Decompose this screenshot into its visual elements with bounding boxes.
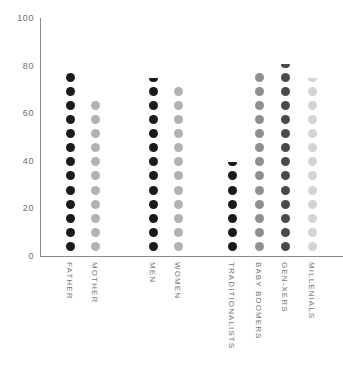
dot: [174, 214, 183, 223]
dot-column-millenials: [305, 78, 319, 256]
dot: [66, 157, 75, 166]
dot: [281, 87, 290, 96]
dot: [66, 242, 75, 251]
dot: [281, 129, 290, 138]
dot: [255, 101, 264, 110]
dot: [255, 228, 264, 237]
dot: [281, 101, 290, 110]
dot: [174, 228, 183, 237]
x-axis-label-gen-xers: GEN-XERS: [280, 262, 289, 313]
dot: [91, 171, 100, 180]
dot: [66, 228, 75, 237]
dot: [66, 171, 75, 180]
dot: [308, 157, 317, 166]
dot: [255, 157, 264, 166]
dot-column-gen-xers: [278, 64, 292, 256]
dot: [149, 129, 158, 138]
x-axis-label-women: WOMEN: [173, 262, 182, 299]
dot: [255, 143, 264, 152]
dot: [91, 228, 100, 237]
dot: [281, 186, 290, 195]
dot: [308, 242, 317, 251]
dot: [174, 171, 183, 180]
dot-column-father: [63, 73, 77, 256]
dot: [255, 214, 264, 223]
dot: [255, 200, 264, 209]
dot: [91, 115, 100, 124]
dot: [174, 143, 183, 152]
dot: [91, 186, 100, 195]
dot: [308, 228, 317, 237]
dot: [149, 186, 158, 195]
dot-partial: [308, 78, 317, 82]
dot: [255, 129, 264, 138]
dot: [149, 228, 158, 237]
dot: [149, 87, 158, 96]
x-axis-label-father: FATHER: [65, 262, 74, 300]
dot: [308, 129, 317, 138]
dot: [281, 115, 290, 124]
dot: [91, 129, 100, 138]
dot: [91, 200, 100, 209]
dot: [308, 171, 317, 180]
dot: [308, 143, 317, 152]
dot-column-mother: [88, 101, 102, 256]
dot: [281, 157, 290, 166]
dot: [174, 242, 183, 251]
dot: [174, 101, 183, 110]
dot: [174, 200, 183, 209]
dot: [308, 101, 317, 110]
dot: [149, 157, 158, 166]
dot-partial: [149, 78, 158, 82]
dot: [149, 171, 158, 180]
dot: [308, 200, 317, 209]
dot: [174, 129, 183, 138]
dot: [281, 214, 290, 223]
dot: [149, 143, 158, 152]
dot: [149, 200, 158, 209]
dot-column-traditionalists: [225, 162, 239, 256]
dot: [308, 186, 317, 195]
dot: [91, 101, 100, 110]
x-axis-label-millenials: MILLENIALS: [307, 262, 316, 319]
dot: [174, 157, 183, 166]
dot-column-women: [171, 87, 185, 256]
dot: [281, 242, 290, 251]
plot-area: FATHERMOTHERMENWOMENTRADITIONALISTSBABY …: [0, 0, 343, 368]
dot: [255, 186, 264, 195]
dot: [66, 87, 75, 96]
dot: [255, 242, 264, 251]
dot: [66, 200, 75, 209]
dot: [174, 87, 183, 96]
dot: [91, 242, 100, 251]
dot: [281, 228, 290, 237]
dot: [281, 200, 290, 209]
dot: [174, 115, 183, 124]
dot: [91, 157, 100, 166]
x-axis-label-baby-boomers: BABY BOOMERS: [254, 262, 263, 340]
dot: [66, 101, 75, 110]
dot: [149, 214, 158, 223]
dot: [228, 186, 237, 195]
dot: [66, 129, 75, 138]
dot: [66, 214, 75, 223]
dot: [308, 115, 317, 124]
dot: [174, 186, 183, 195]
dot: [66, 115, 75, 124]
dot: [281, 73, 290, 82]
dot: [149, 101, 158, 110]
dot: [91, 214, 100, 223]
dot: [149, 242, 158, 251]
dot-column-baby-boomers: [252, 73, 266, 256]
dot: [228, 200, 237, 209]
dot: [66, 73, 75, 82]
dot: [255, 87, 264, 96]
dot: [66, 143, 75, 152]
x-axis-label-mother: MOTHER: [90, 262, 99, 303]
dot: [255, 171, 264, 180]
dot: [66, 186, 75, 195]
dot: [308, 87, 317, 96]
dot: [255, 115, 264, 124]
dot-partial: [281, 64, 290, 68]
dot-column-men: [146, 78, 160, 256]
